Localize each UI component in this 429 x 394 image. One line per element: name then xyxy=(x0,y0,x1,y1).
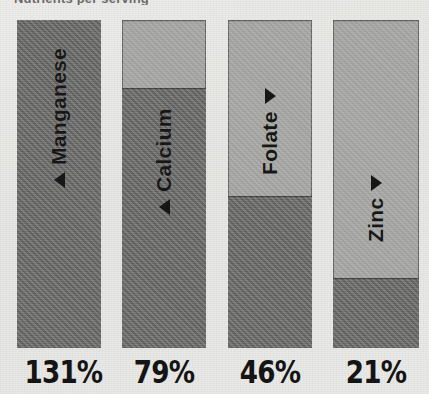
bar-track-manganese xyxy=(17,20,101,348)
bar-fill-zinc xyxy=(333,278,419,348)
nutrient-bar-chart: Manganese Calcium Folate Zinc 131% xyxy=(0,0,429,394)
value-label-zinc: 21% xyxy=(341,353,412,391)
bar-column-folate[interactable]: Folate xyxy=(228,20,312,348)
value-label-manganese: 131% xyxy=(25,353,94,391)
bar-fill-folate xyxy=(228,196,312,348)
bar-column-calcium[interactable]: Calcium xyxy=(122,20,206,348)
bar-fill-manganese xyxy=(17,20,101,348)
value-label-folate: 46% xyxy=(236,353,305,391)
bar-track-folate xyxy=(228,20,312,348)
bar-track-calcium xyxy=(122,20,206,348)
bar-column-zinc[interactable]: Zinc xyxy=(333,20,419,348)
value-label-calcium: 79% xyxy=(130,353,199,391)
bar-column-manganese[interactable]: Manganese xyxy=(17,20,101,348)
bar-track-zinc xyxy=(333,20,419,348)
bar-fill-calcium xyxy=(122,88,206,348)
